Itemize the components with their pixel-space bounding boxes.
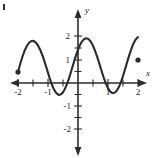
y-axis-arrow-bottom <box>75 147 82 156</box>
graph-figure: -2 -1 1 2 2 1 -1 -2 x y <box>0 0 157 158</box>
endpoint-dot-right <box>135 57 140 62</box>
y-axis-arrow-top <box>75 9 82 18</box>
xtick-label-neg1: -1 <box>44 87 52 97</box>
x-axis-arrow-right <box>138 80 147 87</box>
coordinate-plane: -2 -1 1 2 2 1 -1 -2 x y <box>0 0 157 158</box>
ytick-label-neg1: -1 <box>64 101 72 111</box>
x-axis-label: x <box>145 68 150 78</box>
xtick-label-1: 1 <box>106 87 111 97</box>
ytick-label-1: 1 <box>66 55 71 65</box>
xtick-label-neg2: -2 <box>14 87 22 97</box>
ytick-label-2: 2 <box>66 31 71 41</box>
xtick-label-2: 2 <box>136 87 141 97</box>
ytick-label-neg2: -2 <box>64 124 72 134</box>
endpoint-dot-left <box>15 70 20 75</box>
y-axis-label: y <box>84 5 89 15</box>
